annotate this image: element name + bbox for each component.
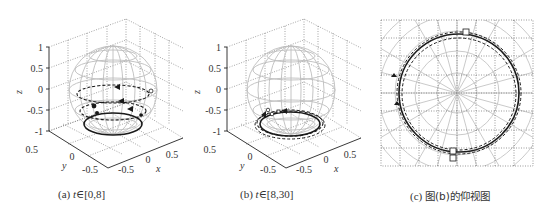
caption-label: (b) bbox=[240, 188, 253, 200]
z-tick: 1 bbox=[216, 42, 221, 53]
bottom-view-plot bbox=[370, 0, 550, 185]
z-tick: -0.5 bbox=[205, 105, 221, 116]
x-tick: 0 bbox=[146, 154, 151, 165]
caption-b: (b) t∈[8,30] bbox=[240, 188, 293, 201]
y-tick: 0.5 bbox=[204, 144, 217, 155]
panel-a: 1 0.5 0 -0.5 -1 z 0.5 0 -0.5 y -0.5 0 0.… bbox=[0, 0, 185, 215]
caption-label: (a) bbox=[58, 188, 70, 200]
y-tick: 0.5 bbox=[26, 144, 39, 155]
z-tick: -0.5 bbox=[27, 105, 43, 116]
caption-c: (c) 图(b)的仰视图 bbox=[410, 188, 490, 203]
x-axis-label: x bbox=[333, 163, 339, 174]
z-tick: 0 bbox=[38, 84, 43, 95]
y-tick: 0 bbox=[248, 151, 253, 162]
y-tick: -0.5 bbox=[260, 164, 276, 175]
x-axis-label: x bbox=[155, 163, 161, 174]
caption-text: 图(b)的仰视图 bbox=[425, 190, 490, 202]
x-tick: 0 bbox=[324, 154, 329, 165]
caption-range: ∈[8,30] bbox=[259, 188, 294, 200]
y-axis-label: y bbox=[61, 160, 67, 171]
x-tick: -0.5 bbox=[296, 164, 312, 175]
sphere-plot-b: 1 0.5 0 -0.5 -1 z 0.5 0 -0.5 y -0.5 0 0.… bbox=[178, 0, 363, 185]
caption-a: (a) t∈[0,8] bbox=[58, 188, 105, 201]
x-tick: -0.5 bbox=[118, 164, 134, 175]
z-axis-label: z bbox=[13, 90, 24, 95]
z-tick: -1 bbox=[213, 126, 221, 137]
x-tick: 0.5 bbox=[344, 149, 357, 160]
z-tick: -1 bbox=[35, 126, 43, 137]
y-axis-label: y bbox=[239, 160, 245, 171]
caption-label: (c) bbox=[410, 190, 425, 202]
z-tick: 0.5 bbox=[209, 63, 222, 74]
y-tick: -0.5 bbox=[82, 164, 98, 175]
z-tick: 1 bbox=[38, 42, 43, 53]
caption-range: ∈[0,8] bbox=[76, 188, 105, 200]
z-tick: 0 bbox=[216, 84, 221, 95]
z-tick: 0.5 bbox=[31, 63, 44, 74]
sphere-plot-a: 1 0.5 0 -0.5 -1 z 0.5 0 -0.5 y -0.5 0 0.… bbox=[0, 0, 185, 185]
y-axis bbox=[49, 131, 108, 168]
y-tick: 0 bbox=[70, 151, 75, 162]
panel-b: 1 0.5 0 -0.5 -1 z 0.5 0 -0.5 y -0.5 0 0.… bbox=[178, 0, 363, 215]
panel-c: (c) 图(b)的仰视图 bbox=[370, 0, 550, 215]
x-tick: 0.5 bbox=[166, 149, 179, 160]
z-axis-label: z bbox=[191, 90, 202, 95]
